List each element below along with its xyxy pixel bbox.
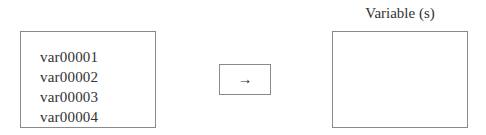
move-to-target-button[interactable]: → [219, 64, 271, 95]
target-list-label: Variable (s) [332, 5, 468, 22]
right-arrow-icon: → [238, 71, 253, 88]
list-item[interactable]: var00003 [40, 89, 98, 106]
source-variable-list[interactable]: var00001 var00002 var00003 var00004 [20, 31, 156, 128]
list-item[interactable]: var00002 [40, 69, 98, 86]
target-variable-list[interactable] [332, 31, 468, 128]
list-item[interactable]: var00004 [40, 109, 98, 126]
list-item[interactable]: var00001 [40, 49, 98, 66]
